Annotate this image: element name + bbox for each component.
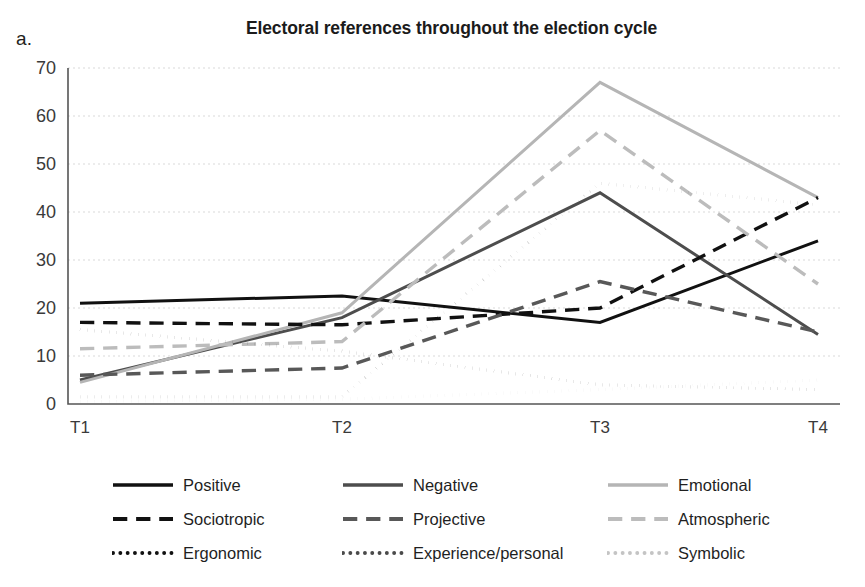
legend-label: Symbolic [678, 544, 745, 563]
chart-figure: a. Electoral references throughout the e… [0, 0, 865, 587]
legend-label: Negative [413, 476, 478, 495]
series-group [80, 82, 818, 401]
legend-item-ergonomic[interactable]: Ergonomic [112, 544, 342, 563]
legend-label: Projective [413, 510, 485, 529]
x-axis-tick-label: T4 [808, 418, 828, 437]
legend-swatch-icon [112, 512, 174, 526]
legend-swatch-icon [607, 512, 669, 526]
legend-swatch-icon [342, 512, 404, 526]
legend-item-symbolic[interactable]: Symbolic [607, 544, 832, 563]
x-axis-tick-label: T1 [70, 418, 90, 437]
legend-label: Emotional [678, 476, 751, 495]
chart-legend: PositiveNegativeEmotionalSociotropicProj… [112, 468, 832, 570]
legend-item-negative[interactable]: Negative [342, 476, 607, 495]
legend-item-positive[interactable]: Positive [112, 476, 342, 495]
legend-swatch-icon [342, 546, 404, 560]
x-axis-tick-label: T2 [332, 418, 352, 437]
legend-label: Atmospheric [678, 510, 770, 529]
y-axis-tick-label: 70 [36, 58, 56, 78]
series-line-ergonomic [80, 330, 818, 390]
y-axis-tick-label: 10 [36, 346, 56, 366]
y-axis-tick-label: 60 [36, 106, 56, 126]
legend-swatch-icon [112, 546, 174, 560]
legend-item-experience-personal[interactable]: Experience/personal [342, 544, 607, 563]
y-axis-tick-label: 40 [36, 202, 56, 222]
series-line-symbolic [80, 380, 818, 402]
legend-label: Positive [183, 476, 241, 495]
series-line-emotional [80, 82, 818, 382]
series-line-atmospheric [80, 130, 818, 348]
y-axis-tick-label: 50 [36, 154, 56, 174]
line-chart-svg: 010203040506070 T1T2T3T4 [0, 0, 865, 470]
y-axis-tick-label: 0 [46, 394, 56, 414]
legend-swatch-icon [607, 546, 669, 560]
legend-label: Experience/personal [413, 544, 563, 563]
legend-label: Sociotropic [183, 510, 265, 529]
legend-item-sociotropic[interactable]: Sociotropic [112, 510, 342, 529]
legend-item-emotional[interactable]: Emotional [607, 476, 832, 495]
legend-item-projective[interactable]: Projective [342, 510, 607, 529]
legend-swatch-icon [112, 478, 174, 492]
series-line-projective [80, 282, 818, 376]
y-axis-tick-label: 20 [36, 298, 56, 318]
plot-area: 010203040506070 T1T2T3T4 [0, 0, 865, 470]
y-axis-ticks-group: 010203040506070 [36, 58, 56, 414]
x-axis-ticks-group: T1T2T3T4 [70, 418, 828, 437]
legend-label: Ergonomic [183, 544, 262, 563]
y-axis-tick-label: 30 [36, 250, 56, 270]
legend-swatch-icon [607, 478, 669, 492]
legend-swatch-icon [342, 478, 404, 492]
legend-item-atmospheric[interactable]: Atmospheric [607, 510, 832, 529]
x-axis-tick-label: T3 [590, 418, 610, 437]
